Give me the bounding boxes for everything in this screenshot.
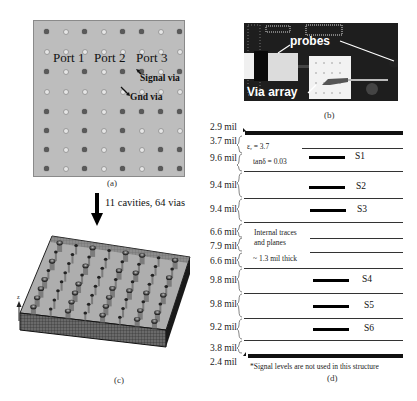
signal-label-s5: S5	[364, 300, 374, 310]
z-axis-label: z	[17, 294, 20, 300]
plane-8	[244, 340, 403, 341]
thickness-label: 2.9 mil	[199, 122, 237, 132]
thickness-label: 9.8 mil	[199, 275, 237, 285]
trace-s2	[309, 186, 345, 189]
down-arrow-icon	[91, 193, 103, 227]
signal-label-s3: S3	[357, 204, 367, 214]
plane-6	[244, 293, 403, 294]
thickness-label: 6.6 mil	[199, 256, 237, 266]
loss-tangent: tanδ = 0.03	[253, 157, 287, 166]
bottom-ground-plane	[248, 354, 403, 358]
footnote: *Signal levels are not used in this stru…	[250, 362, 379, 371]
internal-plane-2	[310, 252, 403, 253]
internal-note-line-2: and planes	[254, 238, 286, 247]
signal-label-s6: S6	[364, 323, 374, 333]
measurement-photo: probes Via array	[244, 23, 398, 101]
trace-s1	[309, 156, 345, 159]
plane-2	[244, 171, 403, 172]
thickness-label: 2.4 mil	[199, 357, 237, 367]
thickness-label: 9.4 mil	[199, 204, 237, 214]
thickness-braces	[236, 120, 246, 365]
internal-note-line-1: Internal traces	[254, 228, 297, 237]
thickness-label: 9.6 mil	[199, 153, 237, 163]
thickness-label: 9.4 mil	[199, 180, 237, 190]
transition-label: 11 cavities, 64 vias	[105, 197, 185, 208]
internal-plane-1	[310, 238, 403, 239]
plane-1	[302, 148, 403, 149]
internal-note-line-3: ~ 1.3 mil thick	[253, 254, 297, 263]
trace-s4	[313, 279, 349, 282]
top-ground-plane	[245, 131, 403, 135]
thickness-label: 9.2 mil	[199, 322, 237, 332]
via-array-3d-model: z	[0, 225, 205, 365]
trace-s3	[310, 209, 346, 212]
plane-3	[244, 198, 403, 199]
thickness-label: 3.7 mil	[199, 136, 237, 146]
thickness-label: 9.8 mil	[199, 299, 237, 309]
trace-s6	[313, 328, 349, 331]
plane-7	[244, 318, 403, 319]
caption-b: (b)	[324, 110, 335, 120]
probes-label: probes	[290, 34, 330, 48]
caption-c: (c)	[114, 375, 124, 385]
thickness-label: 7.9 mil	[199, 241, 237, 251]
thickness-label: 3.8 mil	[199, 343, 237, 353]
via-array-label: Via array	[247, 85, 298, 99]
signal-label-s2: S2	[356, 181, 366, 191]
dielectric-constant: εᵣ = 3.7	[247, 142, 269, 151]
plane-5	[244, 268, 403, 269]
thickness-label: 6.6 mil	[199, 227, 237, 237]
signal-label-s1: S1	[355, 151, 365, 161]
caption-d: (d)	[327, 373, 338, 383]
plane-4	[244, 222, 403, 223]
signal-label-s4: S4	[362, 274, 372, 284]
caption-a: (a)	[107, 178, 117, 188]
trace-s5	[313, 305, 349, 308]
